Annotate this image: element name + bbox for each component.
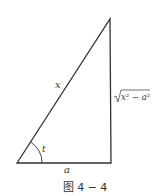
figure-caption: 图 4 − 4 <box>63 181 108 194</box>
side-radicand: x² − a² <box>121 92 151 102</box>
angle-label: t <box>42 144 46 154</box>
angle-arc <box>31 142 42 163</box>
base-label: a <box>64 164 70 175</box>
hypotenuse-label: x <box>55 79 61 90</box>
triangle <box>17 19 111 163</box>
right-triangle-diagram: x t a x² − a² 图 4 − 4 <box>0 0 163 196</box>
side-label: x² − a² <box>114 90 151 102</box>
